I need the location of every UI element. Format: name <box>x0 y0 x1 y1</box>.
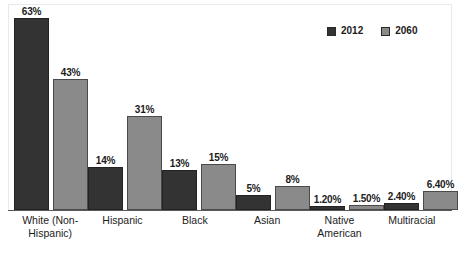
x-tick-line1: Hispanic <box>102 214 142 226</box>
x-tick-line1: Multiracial <box>388 214 435 226</box>
bar-white-non-hispanic-2060[interactable]: 43% <box>53 5 88 210</box>
bar-rect[interactable] <box>423 191 458 211</box>
bar-value-label: 63% <box>22 6 41 17</box>
bar-value-label: 1.20% <box>314 194 341 205</box>
bar-rect[interactable] <box>236 195 271 210</box>
bar-group-hispanic: 14% 31% <box>88 5 162 210</box>
bar-value-label: 6.40% <box>427 179 454 190</box>
x-tick-label-asian: Asian <box>231 214 303 240</box>
bar-rect[interactable] <box>88 167 123 210</box>
bar-value-label: 31% <box>135 104 154 115</box>
bar-value-label: 43% <box>61 67 80 78</box>
x-tick-line1: Asian <box>254 214 280 226</box>
bar-group-white-non-hispanic: 63% 43% <box>14 5 88 210</box>
bar-value-label: 5% <box>246 183 260 194</box>
chart-legend: 2012 2060 <box>327 26 418 36</box>
x-tick-label-hispanic: Hispanic <box>86 214 158 240</box>
legend-item-2060[interactable]: 2060 <box>381 26 417 36</box>
bar-value-label: 8% <box>285 174 299 185</box>
bar-asian-2060[interactable]: 8% <box>275 5 310 210</box>
x-tick-label-multiracial: Multiracial <box>376 214 448 240</box>
x-tick-line1: Black <box>182 214 208 226</box>
x-tick-line2: American <box>305 227 373 240</box>
x-tick-label-native-american: Native American <box>303 214 375 240</box>
bar-rect[interactable] <box>53 79 88 210</box>
legend-label: 2012 <box>341 26 363 36</box>
bar-rect[interactable] <box>201 164 236 210</box>
x-tick-line1: White (Non- <box>22 214 78 226</box>
x-axis-tick-labels: White (Non- Hispanic) Hispanic Black Asi… <box>14 214 448 240</box>
bar-black-2060[interactable]: 15% <box>201 5 236 210</box>
legend-label: 2060 <box>395 26 417 36</box>
bar-rect[interactable] <box>384 203 419 210</box>
x-tick-label-black: Black <box>159 214 231 240</box>
legend-swatch-icon <box>327 27 336 36</box>
bar-black-2012[interactable]: 13% <box>162 5 197 210</box>
bar-hispanic-2060[interactable]: 31% <box>127 5 162 210</box>
bar-asian-2012[interactable]: 5% <box>236 5 271 210</box>
bar-rect[interactable] <box>162 170 197 210</box>
x-tick-line1: Native <box>325 214 355 226</box>
bar-value-label: 2.40% <box>388 191 415 202</box>
bar-group-black: 13% 15% <box>162 5 236 210</box>
bar-hispanic-2012[interactable]: 14% <box>88 5 123 210</box>
bar-group-asian: 5% 8% <box>236 5 310 210</box>
legend-item-2012[interactable]: 2012 <box>327 26 363 36</box>
bar-value-label: 13% <box>170 158 189 169</box>
bar-multiracial-2060[interactable]: 6.40% <box>423 5 458 210</box>
bar-white-non-hispanic-2012[interactable]: 63% <box>14 5 49 210</box>
bar-value-label: 14% <box>96 155 115 166</box>
bar-value-label: 15% <box>209 152 228 163</box>
bar-rect[interactable] <box>127 116 162 210</box>
bar-chart: 63% 43% 14% 31% 13% 15% <box>0 0 460 254</box>
bar-rect[interactable] <box>275 186 310 210</box>
x-tick-line2: Hispanic) <box>16 227 84 240</box>
x-tick-label-white-non-hispanic: White (Non- Hispanic) <box>14 214 86 240</box>
bar-value-label: 1.50% <box>353 193 380 204</box>
bar-rect[interactable] <box>14 18 49 210</box>
legend-swatch-icon <box>381 27 390 36</box>
x-axis-line <box>8 210 452 211</box>
